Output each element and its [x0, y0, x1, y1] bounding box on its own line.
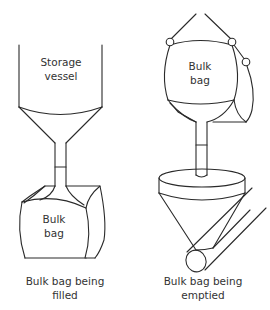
bulk-bag-emptying-label-line2: bag [190, 74, 210, 86]
bulk-bag-diagram: Storage vessel B [0, 0, 270, 310]
storage-vessel: Storage vessel [19, 45, 102, 143]
storage-vessel-label-line1: Storage [40, 56, 81, 68]
bulk-bag-filling-label-line1: Bulk [43, 213, 67, 225]
bulk-bag-filling: Bulk bag [20, 186, 105, 258]
conveyor-tube [183, 188, 266, 275]
emptying-caption-line2: emptied [181, 289, 225, 301]
bulk-bag-emptying-label-line1: Bulk [189, 60, 213, 72]
emptying-caption-line1: Bulk bag being [164, 275, 243, 287]
emptying-diagram: Bulk bag [159, 14, 266, 301]
filling-pipe [55, 143, 66, 186]
lifting-straps [170, 14, 245, 60]
filling-caption-line1: Bulk bag being [26, 275, 105, 287]
storage-vessel-label-line2: vessel [45, 70, 78, 82]
bulk-bag-filling-label-line2: bag [44, 227, 64, 239]
filling-caption-line2: filled [52, 289, 78, 301]
shackle-ring-right [228, 38, 236, 46]
shackle-ring-left [166, 38, 174, 46]
filling-diagram: Storage vessel B [19, 45, 105, 301]
shackle-ring-side [242, 58, 250, 66]
